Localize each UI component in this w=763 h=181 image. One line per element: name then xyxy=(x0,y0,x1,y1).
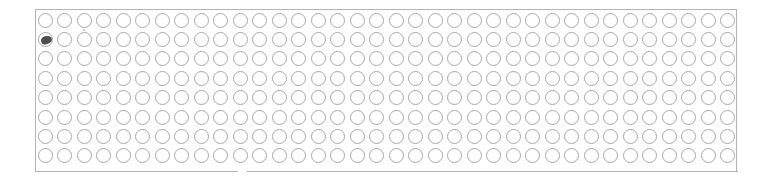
bubble-r7-c33[interactable] xyxy=(662,129,677,144)
bubble-r4-c19[interactable] xyxy=(389,71,404,86)
bubble-r6-c20[interactable] xyxy=(408,110,423,125)
bubble-r2-c6[interactable] xyxy=(135,32,150,47)
bubble-r8-c27[interactable] xyxy=(545,148,560,163)
bubble-r2-c20[interactable] xyxy=(408,32,423,47)
bubble-r5-c4[interactable] xyxy=(96,90,111,105)
bubble-r8-c33[interactable] xyxy=(662,148,677,163)
bubble-r5-c17[interactable] xyxy=(350,90,365,105)
bubble-r2-c10[interactable] xyxy=(213,32,228,47)
bubble-r6-c21[interactable] xyxy=(428,110,443,125)
bubble-r2-c16[interactable] xyxy=(330,32,345,47)
bubble-r5-c1[interactable] xyxy=(38,90,53,105)
bubble-r5-c14[interactable] xyxy=(291,90,306,105)
bubble-r8-c26[interactable] xyxy=(525,148,540,163)
bubble-r1-c18[interactable] xyxy=(369,13,384,28)
bubble-r7-c10[interactable] xyxy=(213,129,228,144)
bubble-r5-c30[interactable] xyxy=(603,90,618,105)
bubble-r1-c25[interactable] xyxy=(506,13,521,28)
bubble-r7-c2[interactable] xyxy=(57,129,72,144)
bubble-r6-c9[interactable] xyxy=(194,110,209,125)
bubble-r6-c23[interactable] xyxy=(467,110,482,125)
bubble-r8-c24[interactable] xyxy=(486,148,501,163)
bubble-r4-c31[interactable] xyxy=(623,71,638,86)
bubble-r3-c36[interactable] xyxy=(720,51,735,66)
bubble-r6-c19[interactable] xyxy=(389,110,404,125)
bubble-r6-c18[interactable] xyxy=(369,110,384,125)
bubble-r8-c32[interactable] xyxy=(642,148,657,163)
bubble-r1-c29[interactable] xyxy=(584,13,599,28)
bubble-r4-c3[interactable] xyxy=(77,71,92,86)
bubble-r2-c4[interactable] xyxy=(96,32,111,47)
bubble-r5-c25[interactable] xyxy=(506,90,521,105)
bubble-r6-c31[interactable] xyxy=(623,110,638,125)
bubble-r8-c14[interactable] xyxy=(291,148,306,163)
bubble-r8-c6[interactable] xyxy=(135,148,150,163)
bubble-r4-c4[interactable] xyxy=(96,71,111,86)
bubble-r3-c33[interactable] xyxy=(662,51,677,66)
bubble-r3-c9[interactable] xyxy=(194,51,209,66)
bubble-r3-c13[interactable] xyxy=(272,51,287,66)
bubble-r2-c31[interactable] xyxy=(623,32,638,47)
bubble-r3-c16[interactable] xyxy=(330,51,345,66)
bubble-r1-c28[interactable] xyxy=(564,13,579,28)
bubble-r7-c27[interactable] xyxy=(545,129,560,144)
bubble-r3-c27[interactable] xyxy=(545,51,560,66)
bubble-r2-c27[interactable] xyxy=(545,32,560,47)
bubble-r2-c25[interactable] xyxy=(506,32,521,47)
bubble-r8-c35[interactable] xyxy=(701,148,716,163)
bubble-r4-c28[interactable] xyxy=(564,71,579,86)
bubble-r4-c35[interactable] xyxy=(701,71,716,86)
bubble-r7-c28[interactable] xyxy=(564,129,579,144)
bubble-r3-c31[interactable] xyxy=(623,51,638,66)
bubble-r4-c5[interactable] xyxy=(116,71,131,86)
bubble-r6-c3[interactable] xyxy=(77,110,92,125)
bubble-r2-c12[interactable] xyxy=(252,32,267,47)
bubble-r2-c33[interactable] xyxy=(662,32,677,47)
bubble-r4-c30[interactable] xyxy=(603,71,618,86)
bubble-r4-c11[interactable] xyxy=(233,71,248,86)
bubble-r3-c34[interactable] xyxy=(681,51,696,66)
bubble-r3-c1[interactable] xyxy=(38,51,53,66)
bubble-r8-c4[interactable] xyxy=(96,148,111,163)
bubble-r2-c34[interactable] xyxy=(681,32,696,47)
bubble-r5-c29[interactable] xyxy=(584,90,599,105)
bubble-r6-c29[interactable] xyxy=(584,110,599,125)
bubble-r5-c8[interactable] xyxy=(174,90,189,105)
bubble-r7-c14[interactable] xyxy=(291,129,306,144)
bubble-r1-c1[interactable] xyxy=(38,13,53,28)
bubble-r6-c12[interactable] xyxy=(252,110,267,125)
bubble-r3-c17[interactable] xyxy=(350,51,365,66)
bubble-r7-c23[interactable] xyxy=(467,129,482,144)
bubble-r6-c11[interactable] xyxy=(233,110,248,125)
bubble-r8-c10[interactable] xyxy=(213,148,228,163)
bubble-r4-c23[interactable] xyxy=(467,71,482,86)
bubble-r7-c6[interactable] xyxy=(135,129,150,144)
bubble-r5-c34[interactable] xyxy=(681,90,696,105)
bubble-r3-c7[interactable] xyxy=(155,51,170,66)
bubble-r2-c15[interactable] xyxy=(311,32,326,47)
bubble-r8-c20[interactable] xyxy=(408,148,423,163)
bubble-r8-c29[interactable] xyxy=(584,148,599,163)
bubble-r3-c6[interactable] xyxy=(135,51,150,66)
bubble-r8-c9[interactable] xyxy=(194,148,209,163)
bubble-r1-c26[interactable] xyxy=(525,13,540,28)
bubble-r7-c7[interactable] xyxy=(155,129,170,144)
bubble-r3-c21[interactable] xyxy=(428,51,443,66)
bubble-r4-c18[interactable] xyxy=(369,71,384,86)
bubble-r7-c29[interactable] xyxy=(584,129,599,144)
bubble-r6-c1[interactable] xyxy=(38,110,53,125)
bubble-r3-c20[interactable] xyxy=(408,51,423,66)
bubble-r4-c10[interactable] xyxy=(213,71,228,86)
bubble-r1-c10[interactable] xyxy=(213,13,228,28)
bubble-r7-c1[interactable] xyxy=(38,129,53,144)
bubble-r2-c5[interactable] xyxy=(116,32,131,47)
bubble-r6-c2[interactable] xyxy=(57,110,72,125)
bubble-r1-c4[interactable] xyxy=(96,13,111,28)
bubble-r2-c30[interactable] xyxy=(603,32,618,47)
bubble-r1-c2[interactable] xyxy=(57,13,72,28)
bubble-r7-c35[interactable] xyxy=(701,129,716,144)
bubble-r6-c17[interactable] xyxy=(350,110,365,125)
bubble-r6-c30[interactable] xyxy=(603,110,618,125)
bubble-r7-c30[interactable] xyxy=(603,129,618,144)
bubble-r8-c16[interactable] xyxy=(330,148,345,163)
